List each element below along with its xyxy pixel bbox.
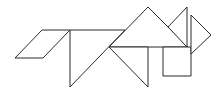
square-piece xyxy=(163,47,191,76)
medium-triangle-chest-piece xyxy=(109,47,148,87)
small-triangle-snout-piece xyxy=(191,15,211,54)
parallelogram-piece xyxy=(15,30,70,58)
tangram-figure xyxy=(0,0,224,95)
tangram-svg xyxy=(0,0,224,95)
